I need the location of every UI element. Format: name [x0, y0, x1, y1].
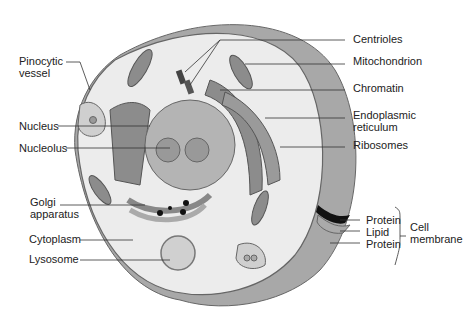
label-membrane-protein-inner: Protein	[366, 238, 401, 250]
label-golgi-apparatus: Golgi apparatus	[30, 196, 79, 220]
label-ribosomes: Ribosomes	[353, 139, 408, 151]
label-mitochondrion: Mitochondrion	[353, 55, 422, 67]
label-lysosome: Lysosome	[29, 253, 79, 265]
cell-illustration	[0, 0, 474, 322]
label-membrane-lipid: Lipid	[366, 226, 389, 238]
label-nucleolus: Nucleolus	[19, 142, 67, 154]
nucleolus-shape	[185, 138, 209, 162]
label-cell-membrane: Cell membrane	[410, 221, 463, 245]
label-nucleus: Nucleus	[19, 120, 59, 132]
nucleolus-shape	[156, 138, 180, 162]
label-cytoplasm: Cytoplasm	[29, 233, 81, 245]
label-centrioles: Centrioles	[353, 33, 403, 45]
label-endoplasmic-reticulum: Endoplasmic reticulum	[353, 109, 416, 133]
label-membrane-protein-outer: Protein	[366, 214, 401, 226]
label-pinocytic-vessel: Pinocytic vessel	[19, 55, 63, 79]
label-chromatin: Chromatin	[353, 82, 404, 94]
lysosome-shape	[161, 236, 195, 270]
